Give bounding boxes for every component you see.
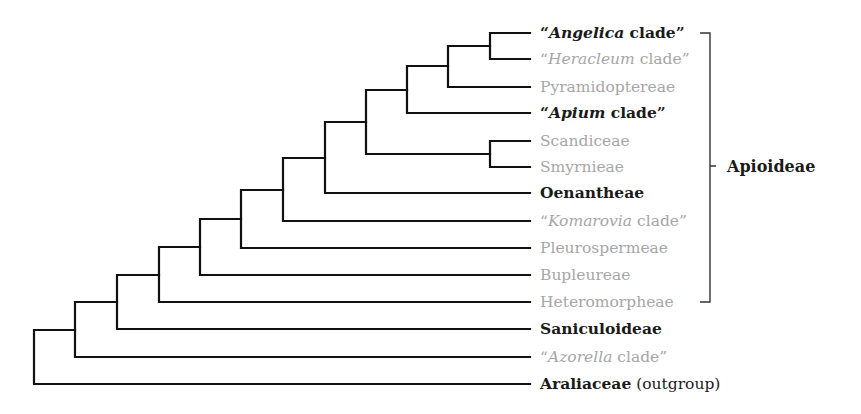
- leaf-smyrnieae: Smyrnieae: [540, 158, 624, 176]
- branch-angelica-heracleum: [490, 33, 530, 59]
- leaf-apium-clade: “Apium clade”: [540, 104, 666, 122]
- cladogram: [0, 0, 861, 414]
- branch-apium-node: [407, 66, 530, 113]
- leaf-apium-rest: clade: [605, 103, 656, 122]
- leaf-pleurospermeae: Pleurospermeae: [540, 239, 668, 257]
- leaf-angelica-rest: clade: [624, 23, 675, 42]
- leaf-heteromorpheae: Heteromorpheae: [540, 293, 674, 311]
- leaf-azorella-rest: clade: [612, 348, 659, 366]
- leaf-araliaceae-name: Araliaceae: [540, 374, 631, 393]
- clade-label-apioideae: Apioideae: [727, 157, 815, 176]
- leaf-angelica-clade: “Angelica clade”: [540, 24, 685, 42]
- leaf-komarovia-rest: clade: [632, 212, 679, 230]
- leaf-pyramidoptereae: Pyramidoptereae: [540, 78, 675, 96]
- leaf-komarovia-italic: Komarovia: [548, 212, 632, 230]
- leaf-araliaceae-outgroup: Araliaceae (outgroup): [540, 375, 720, 393]
- leaf-azorella-clade: “Azorella clade”: [540, 348, 667, 366]
- leaf-scandiceae: Scandiceae: [540, 132, 630, 150]
- leaf-oenantheae: Oenantheae: [540, 184, 644, 202]
- leaf-bupleureae: Bupleureae: [540, 266, 630, 284]
- leaf-azorella-italic: Azorella: [548, 348, 612, 366]
- leaf-saniculoideae: Saniculoideae: [540, 320, 662, 338]
- leaf-heracleum-italic: Heracleum: [548, 50, 635, 68]
- leaf-araliaceae-suffix: (outgroup): [631, 375, 720, 393]
- leaf-komarovia-clade: “Komarovia clade”: [540, 212, 687, 230]
- apioideae-bracket: [700, 33, 716, 302]
- leaf-apium-italic: Apium: [549, 103, 605, 122]
- branch-oenantheae-node: [325, 122, 530, 193]
- leaf-angelica-italic: Angelica: [549, 23, 624, 42]
- branch-core-node: [366, 90, 490, 154]
- leaf-heracleum-clade: “Heracleum clade”: [540, 50, 690, 68]
- branch-scandiceae-smyrnieae: [490, 141, 530, 167]
- branch-pleurospermeae-node: [241, 190, 530, 248]
- leaf-heracleum-rest: clade: [635, 50, 682, 68]
